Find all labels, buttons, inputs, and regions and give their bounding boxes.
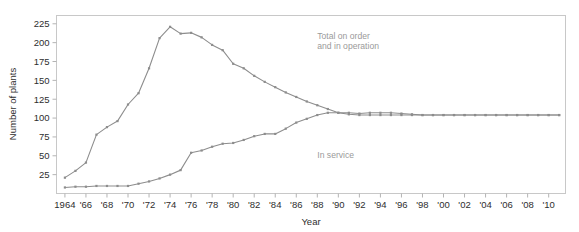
series-data-point xyxy=(316,114,318,116)
series-data-point xyxy=(379,112,381,114)
series-data-point xyxy=(442,114,444,116)
series-data-point xyxy=(432,114,434,116)
series-data-point xyxy=(137,183,139,185)
series-data-point xyxy=(64,177,66,179)
y-tick-label: 50 xyxy=(39,150,50,161)
x-tick-label: '98 xyxy=(416,199,428,210)
y-axis-title: Number of plants xyxy=(7,68,18,141)
series-data-point xyxy=(211,146,213,148)
series-data-point xyxy=(274,86,276,88)
series-data-point xyxy=(253,75,255,77)
y-tick-label: 150 xyxy=(34,75,50,86)
x-tick-label: '82 xyxy=(248,199,260,210)
series-data-point xyxy=(106,126,108,128)
series-data-point xyxy=(127,185,129,187)
series-data-point xyxy=(211,44,213,46)
series-data-point xyxy=(169,26,171,28)
series-data-point xyxy=(516,114,518,116)
y-tick-label: 175 xyxy=(34,56,50,67)
x-tick-label: '78 xyxy=(206,199,218,210)
series-data-point xyxy=(127,103,129,105)
series-data-point xyxy=(264,81,266,83)
x-tick-label: '84 xyxy=(269,199,281,210)
series-data-point xyxy=(379,114,381,116)
series-data-point xyxy=(222,143,224,145)
series-data-point xyxy=(295,122,297,124)
series-data-point xyxy=(348,112,350,114)
y-tick-label: 75 xyxy=(39,131,50,142)
series-data-point xyxy=(190,32,192,34)
series-data-point xyxy=(180,33,182,35)
series-data-point xyxy=(106,185,108,187)
series-data-point xyxy=(74,186,76,188)
x-tick-label: '02 xyxy=(458,199,470,210)
x-tick-label: '90 xyxy=(332,199,344,210)
series-data-point xyxy=(64,186,66,188)
series-data-point xyxy=(116,185,118,187)
series-data-point xyxy=(484,114,486,116)
series-data-point xyxy=(337,112,339,114)
x-tick-label: '06 xyxy=(500,199,512,210)
series-data-point xyxy=(190,152,192,154)
series-data-point xyxy=(222,49,224,51)
series-data-point xyxy=(421,114,423,116)
series-data-point xyxy=(74,170,76,172)
series-data-point xyxy=(474,114,476,116)
series-data-point xyxy=(400,112,402,114)
series-data-point xyxy=(495,114,497,116)
chart-background xyxy=(0,0,579,232)
series-data-point xyxy=(148,180,150,182)
x-tick-label: '86 xyxy=(290,199,302,210)
x-tick-label: '68 xyxy=(101,199,113,210)
line-chart: 255075100125150175200225 1964'66'68'70'7… xyxy=(0,0,579,232)
series-data-point xyxy=(232,63,234,65)
x-tick-label: '96 xyxy=(395,199,407,210)
x-tick-label: '94 xyxy=(374,199,386,210)
series-data-point xyxy=(137,92,139,94)
series-label-line: and in operation xyxy=(317,41,379,51)
series-data-point xyxy=(327,112,329,114)
series-data-point xyxy=(169,174,171,176)
series-label-2: In service xyxy=(317,150,354,160)
series-data-point xyxy=(548,114,550,116)
x-axis-title: Year xyxy=(301,216,320,227)
x-tick-label: '88 xyxy=(311,199,323,210)
y-tick-label: 125 xyxy=(34,94,50,105)
series-data-point xyxy=(243,67,245,69)
series-data-point xyxy=(463,114,465,116)
x-tick-label: '04 xyxy=(479,199,491,210)
series-data-point xyxy=(253,135,255,137)
y-tick-label: 100 xyxy=(34,112,50,123)
series-label-line: Total on order xyxy=(317,31,370,41)
series-data-point xyxy=(201,149,203,151)
x-tick-label: '80 xyxy=(227,199,239,210)
series-data-point xyxy=(506,114,508,116)
series-data-point xyxy=(95,185,97,187)
series-data-point xyxy=(264,133,266,135)
series-data-point xyxy=(306,118,308,120)
series-data-point xyxy=(453,114,455,116)
series-data-point xyxy=(390,114,392,116)
series-label-line: In service xyxy=(317,150,354,160)
series-data-point xyxy=(411,113,413,115)
series-data-point xyxy=(390,112,392,114)
series-data-point xyxy=(327,108,329,110)
series-data-point xyxy=(201,36,203,38)
x-tick-label: '00 xyxy=(437,199,449,210)
series-data-point xyxy=(95,134,97,136)
series-data-point xyxy=(527,114,529,116)
x-tick-label: '74 xyxy=(164,199,176,210)
series-data-point xyxy=(85,161,87,163)
series-data-point xyxy=(358,112,360,114)
x-tick-label: '76 xyxy=(185,199,197,210)
x-tick-label: '10 xyxy=(542,199,554,210)
series-data-point xyxy=(369,112,371,114)
series-data-point xyxy=(158,37,160,39)
y-tick-label: 225 xyxy=(34,18,50,29)
y-tick-label: 25 xyxy=(39,169,50,180)
series-data-point xyxy=(295,96,297,98)
series-data-point xyxy=(232,142,234,144)
series-data-point xyxy=(285,91,287,93)
series-data-point xyxy=(243,139,245,141)
series-data-point xyxy=(85,186,87,188)
